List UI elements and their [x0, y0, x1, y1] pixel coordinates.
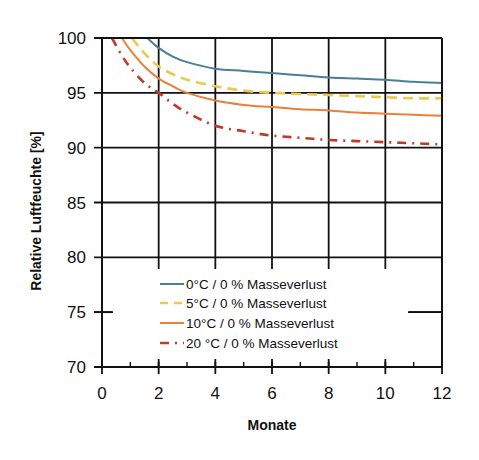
legend-label: 5°C / 0 % Masseverlust — [186, 296, 327, 311]
y-tick-label: 80 — [67, 248, 86, 267]
x-tick-label: 2 — [154, 384, 163, 403]
x-tick-label: 4 — [211, 384, 220, 403]
y-tick-label: 85 — [67, 194, 86, 213]
x-tick-label: 6 — [267, 384, 276, 403]
x-tick-label: 0 — [97, 384, 106, 403]
y-tick-label: 100 — [58, 29, 86, 48]
y-tick-label: 90 — [67, 139, 86, 158]
y-tick-label: 75 — [67, 303, 86, 322]
legend-label: 20 °C / 0 % Masseverlust — [186, 336, 338, 351]
y-axis-title: Relative Luftfeuchte [%] — [28, 131, 44, 290]
x-axis-title: Monate — [248, 417, 297, 433]
legend-item: 10°C / 0 % Masseverlust — [160, 316, 334, 331]
x-tick-label: 10 — [376, 384, 395, 403]
legend-label: 10°C / 0 % Masseverlust — [186, 316, 334, 331]
series-line — [147, 38, 442, 83]
data-series — [112, 38, 442, 144]
series-line — [122, 38, 442, 116]
humidity-chart: 024681012100959085807570 Monate Relative… — [0, 0, 479, 460]
legend-label: 0°C / 0 % Masseverlust — [186, 277, 327, 292]
y-tick-label: 70 — [67, 358, 86, 377]
series-line — [112, 38, 442, 144]
legend-item: 20 °C / 0 % Masseverlust — [160, 336, 338, 351]
x-tick-label: 12 — [433, 384, 452, 403]
x-tick-label: 8 — [324, 384, 333, 403]
y-tick-label: 95 — [67, 84, 86, 103]
